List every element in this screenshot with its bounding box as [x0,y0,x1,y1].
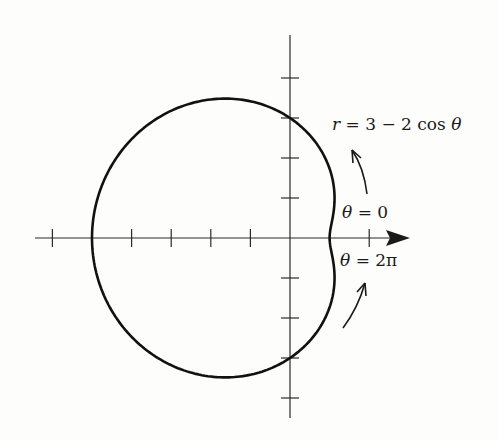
equation-r: r [332,114,340,134]
direction-arrows [343,150,367,328]
theta0-value: = 0 [352,202,388,222]
equation-theta: θ [451,114,461,134]
lower-curved-arrow-icon [343,283,365,328]
theta2pi-var: θ [340,250,350,270]
polar-plot [0,0,499,440]
theta-zero-label: θ = 0 [342,202,388,222]
equation-body: = 3 − 2 cos [340,114,451,134]
equation-label: r = 3 − 2 cos θ [332,114,461,134]
theta-two-pi-label: θ = 2π [340,250,397,270]
theta0-var: θ [342,202,352,222]
theta2pi-value: = 2π [350,250,397,270]
axes [35,35,395,418]
